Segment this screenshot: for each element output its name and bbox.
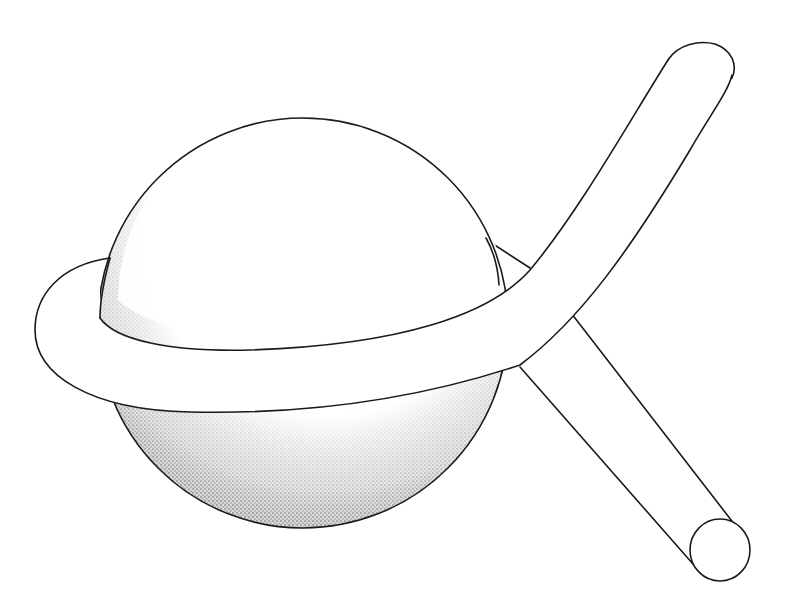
tube-lower-end: [690, 519, 750, 581]
illustration-canvas: [0, 0, 786, 605]
